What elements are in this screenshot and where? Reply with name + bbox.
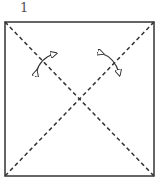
origami-diagram	[0, 0, 159, 187]
fold-arrow-right-icon	[101, 53, 119, 73]
